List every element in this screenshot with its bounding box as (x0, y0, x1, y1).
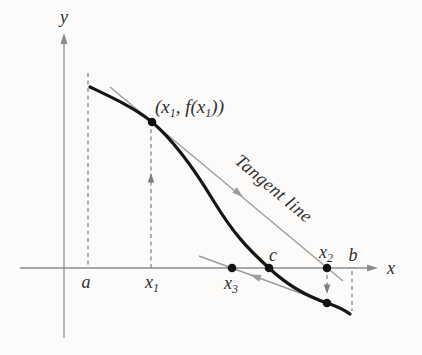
point-x3-on-axis (228, 264, 237, 273)
point-a-label: a (82, 272, 91, 292)
point-label-mid: , f(x (176, 96, 206, 118)
point-coordinates-label: (x1, f(x1)) (155, 96, 224, 120)
figure-canvas: y x a x1 x3 c x2 b (x1, f(x1)) Tangent l… (0, 0, 422, 355)
y-axis-arrowhead-icon (60, 33, 67, 44)
b-label: b (349, 245, 358, 265)
point-x1-on-curve (148, 118, 157, 127)
second-tangent-arrowhead-icon (249, 271, 262, 282)
newtons-method-figure: y x a x1 x3 c x2 b (x1, f(x1)) Tangent l… (0, 0, 422, 355)
x3-label-base: x (223, 273, 232, 293)
x2-label-sub: 2 (327, 251, 333, 265)
up-arrowhead-icon (148, 173, 154, 183)
tangent-line-label: Tangent line (231, 150, 317, 226)
x1-label: x1 (144, 272, 159, 295)
c-label: c (269, 245, 277, 265)
point-fx2-on-curve (323, 299, 332, 308)
function-curve (90, 87, 350, 314)
axes (20, 33, 378, 338)
x3-label-sub: 3 (231, 282, 238, 296)
x3-label: x3 (223, 273, 238, 296)
y-axis-label: y (58, 7, 68, 27)
x1-label-base: x (144, 272, 153, 292)
point-label-close: )) (210, 96, 224, 118)
x2-label: x2 (318, 242, 333, 265)
x-axis-label: x (386, 258, 395, 278)
point-label-open: (x (155, 96, 170, 118)
x2-label-base: x (318, 242, 327, 262)
x1-label-sub: 1 (153, 281, 159, 295)
x-axis-arrowhead-icon (367, 264, 378, 271)
down-arrowhead-icon (324, 285, 330, 295)
